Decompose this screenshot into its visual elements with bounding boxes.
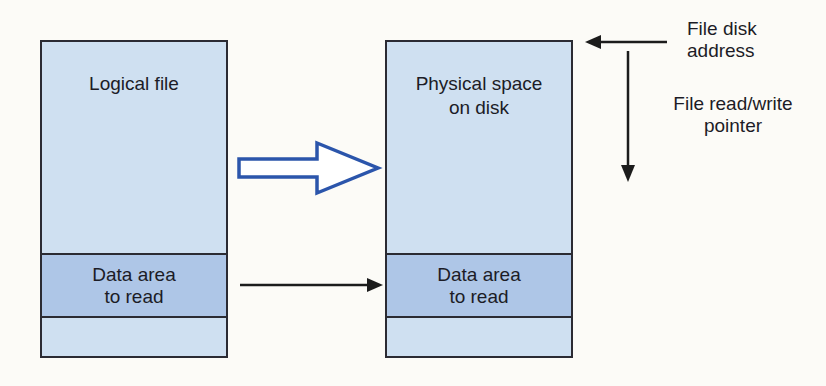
physical-space-bottom-section xyxy=(387,318,571,356)
physical-space-box: Physical space on disk Data area to read xyxy=(385,40,573,358)
file-rw-pointer-arrow-icon xyxy=(621,51,635,182)
logical-data-area-line1: Data area xyxy=(42,264,226,286)
physical-space-title-line2: on disk xyxy=(387,96,571,120)
file-disk-address-label: File disk address xyxy=(687,18,757,62)
data-transfer-arrow-icon xyxy=(240,278,383,292)
mapping-arrow-icon xyxy=(239,143,378,193)
logical-data-area-line2: to read xyxy=(42,286,226,308)
diagram-canvas: Logical file Data area to read Physical … xyxy=(0,0,826,386)
logical-file-data-area-band: Data area to read xyxy=(42,253,226,318)
physical-data-area-line1: Data area xyxy=(387,264,571,286)
logical-file-title: Logical file xyxy=(89,73,179,94)
logical-file-top-section: Logical file xyxy=(42,42,226,253)
physical-space-top-section: Physical space on disk xyxy=(387,42,571,253)
file-rw-pointer-line2: pointer xyxy=(645,115,821,137)
physical-data-area-line2: to read xyxy=(387,286,571,308)
file-disk-address-line2: address xyxy=(687,40,757,62)
file-rw-pointer-label: File read/write pointer xyxy=(645,93,821,137)
physical-space-title-line1: Physical space xyxy=(387,72,571,96)
physical-data-area-band: Data area to read xyxy=(387,253,571,318)
file-rw-pointer-line1: File read/write xyxy=(645,93,821,115)
file-disk-address-line1: File disk xyxy=(687,18,757,40)
file-disk-address-arrow-icon xyxy=(585,35,667,49)
logical-file-bottom-section xyxy=(42,318,226,356)
logical-file-box: Logical file Data area to read xyxy=(40,40,228,358)
